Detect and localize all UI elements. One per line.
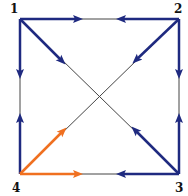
node-label-4: 4 (12, 181, 20, 195)
node-label-2: 2 (174, 2, 182, 16)
directed-graph-diagram: 1 2 3 4 (0, 0, 188, 196)
node-label-3: 3 (175, 181, 183, 195)
edges-from-node-1 (20, 19, 78, 74)
edges-from-node-2 (121, 19, 179, 74)
node-label-1: 1 (10, 2, 18, 16)
